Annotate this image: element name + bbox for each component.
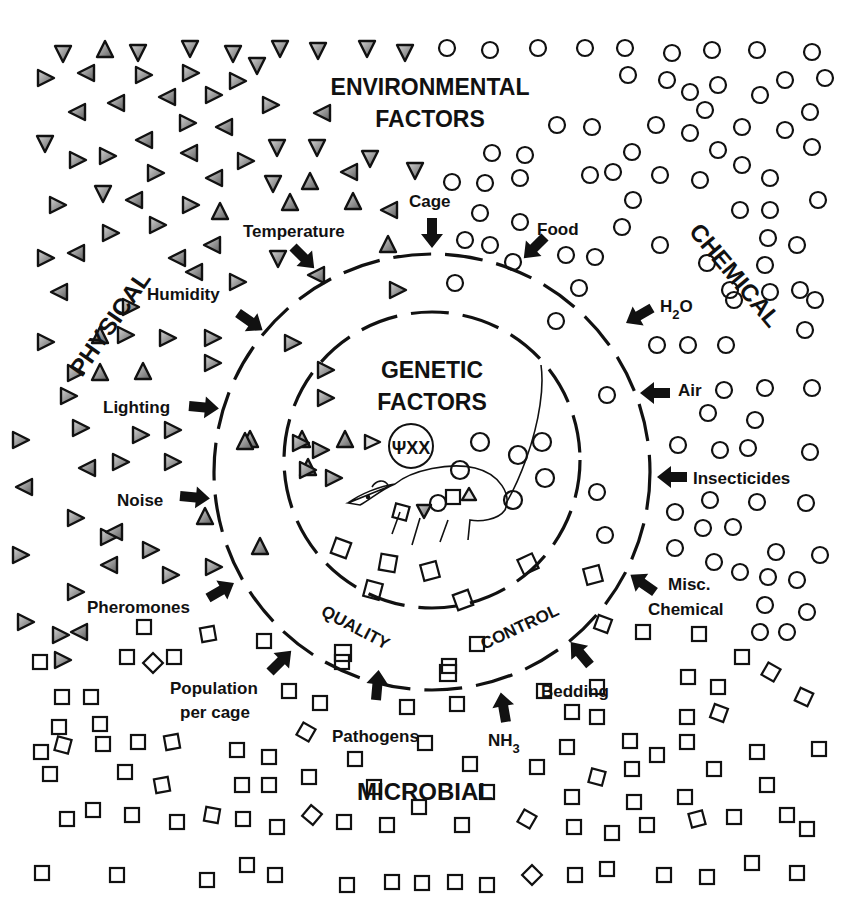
label-insecticides: Insecticides: [693, 469, 790, 488]
arrow-nh3-icon: [490, 691, 517, 724]
label-cage: Cage: [409, 192, 451, 211]
environmental-factors-diagram: ΨXX ENVIRONMENTAL FACTORS GENETIC FACTOR…: [0, 0, 859, 913]
chromosome-icon: ΨXX: [389, 424, 433, 468]
region-microbial: MICROBIAL: [357, 778, 493, 805]
label-population-line1: Population: [170, 679, 258, 698]
arrow-insecticides-icon: [657, 466, 687, 488]
genetic-line2: FACTORS: [377, 389, 486, 415]
arrow-lighting-icon: [188, 395, 220, 420]
label-lighting: Lighting: [103, 398, 170, 417]
label-population-line2: per cage: [180, 703, 250, 722]
arrow-air-icon: [640, 382, 670, 404]
arrow-bedding-icon: [562, 635, 598, 672]
label-air: Air: [678, 381, 702, 400]
arrow-pheromones-icon: [203, 573, 240, 607]
genetic-line1: GENETIC: [381, 357, 483, 383]
arrow-h2o-icon: [621, 298, 658, 332]
label-misc-line1: Misc.: [668, 575, 711, 594]
quality-control-outer-ring: [214, 254, 650, 690]
label-misc-line2: Chemical: [648, 600, 724, 619]
label-pathogens: Pathogens: [332, 727, 419, 746]
ring-label-control: CONTROL: [478, 601, 562, 654]
label-bedding: Bedding: [541, 682, 609, 701]
label-humidity: Humidity: [147, 285, 220, 304]
ring-label-quality: QUALITY: [318, 602, 393, 654]
label-nh3: NH3: [488, 731, 520, 756]
arrow-cage-icon: [421, 218, 443, 248]
label-pheromones: Pheromones: [87, 598, 190, 617]
title-line1: ENVIRONMENTAL: [331, 74, 530, 100]
svg-text:ΨXX: ΨXX: [392, 438, 431, 458]
arrow-misc-chemical-icon: [624, 566, 661, 601]
label-h2o: H2O: [660, 297, 693, 322]
genetic-zone-triangles: [237, 390, 380, 486]
mouse-inner-shapes: [392, 488, 476, 521]
region-chemical: CHEMICAL: [684, 218, 786, 332]
factor-arrows: [179, 218, 687, 724]
title-line2: FACTORS: [375, 106, 484, 132]
arrow-noise-icon: [179, 485, 211, 510]
label-noise: Noise: [117, 491, 163, 510]
label-temperature: Temperature: [243, 222, 345, 241]
